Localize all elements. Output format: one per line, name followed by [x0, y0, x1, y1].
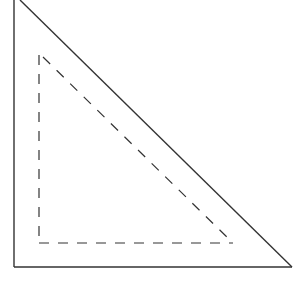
diagram-canvas [0, 0, 302, 286]
outer-triangle [14, 0, 292, 267]
outer-hypotenuse [20, 0, 292, 267]
inner-hypotenuse [43, 57, 233, 243]
inner-dashed-triangle [39, 55, 233, 243]
